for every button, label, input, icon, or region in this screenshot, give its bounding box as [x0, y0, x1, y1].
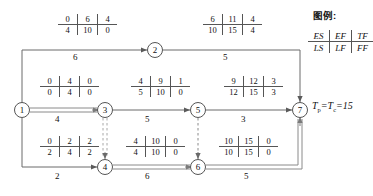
- timebox-lf: 15: [239, 147, 259, 158]
- timebox-ls: 10: [203, 25, 223, 36]
- arc-duration-2-7: 5: [223, 52, 228, 62]
- timebox-tf: 0: [259, 136, 279, 147]
- legend-es: ES: [308, 30, 330, 42]
- arc-duration-1-4: 2: [55, 171, 60, 181]
- timebox-es: 0: [40, 136, 60, 147]
- arc-duration-1-2: 6: [73, 52, 78, 62]
- timebox-arc-1-3: 0 4 0 0 4 0: [40, 76, 99, 97]
- timebox-ff: 0: [171, 87, 191, 98]
- node-circle-7: [293, 103, 308, 118]
- timebox-es: 0: [40, 76, 60, 87]
- node-circle-1: [15, 103, 30, 118]
- project-duration-annotation: Tp=Tc=15: [312, 100, 353, 113]
- legend-lf: LF: [330, 42, 352, 54]
- timebox-lf: 15: [244, 87, 264, 98]
- timebox-tf: 3: [264, 76, 284, 87]
- arc-duration-3-5: 5: [145, 114, 150, 124]
- timebox-ls: 10: [219, 147, 239, 158]
- timebox-es: 0: [58, 14, 78, 25]
- timebox-lf: 15: [223, 25, 243, 36]
- timebox-es: 10: [219, 136, 239, 147]
- timebox-ls: 4: [58, 25, 78, 36]
- arc-duration-6-7: 5: [244, 171, 249, 181]
- timebox-es: 4: [131, 76, 151, 87]
- timebox-es: 4: [126, 136, 146, 147]
- timebox-tf: 0: [166, 136, 186, 147]
- legend-tf: TF: [352, 30, 373, 42]
- timebox-tf: 1: [171, 76, 191, 87]
- timebox-ef: 4: [60, 76, 80, 87]
- timebox-lf: 10: [78, 25, 98, 36]
- timebox-ef: 15: [239, 136, 259, 147]
- timebox-ef: 11: [223, 14, 243, 25]
- timebox-ls: 2: [40, 147, 60, 158]
- timebox-ff: 0: [80, 87, 100, 98]
- timebox-arc-3-5: 4 9 1 5 10 0: [131, 76, 190, 97]
- timebox-arc-4-6: 4 10 0 4 10 0: [126, 136, 185, 157]
- arc-3-4-dummy: [103, 118, 107, 159]
- arc-4-6: [113, 165, 192, 169]
- timebox-ls: 12: [224, 87, 244, 98]
- node-circle-2: [148, 43, 163, 58]
- timebox-ef: 10: [146, 136, 166, 147]
- timebox-es: 6: [203, 14, 223, 25]
- arc-duration-5-7: 3: [241, 114, 246, 124]
- timebox-tf: 4: [243, 14, 263, 25]
- timebox-ef: 2: [60, 136, 80, 147]
- legend-ff: FF: [352, 42, 373, 54]
- timebox-es: 9: [224, 76, 244, 87]
- timebox-arc-2-7: 6 11 4 10 15 4: [203, 14, 262, 35]
- node-circle-5: [191, 103, 206, 118]
- timebox-ff: 4: [243, 25, 263, 36]
- timebox-ef: 12: [244, 76, 264, 87]
- timebox-lf: 10: [151, 87, 171, 98]
- timebox-tf: 4: [98, 14, 118, 25]
- timebox-ls: 4: [126, 147, 146, 158]
- timebox-lf: 4: [60, 147, 80, 158]
- timebox-ff: 0: [259, 147, 279, 158]
- legend-title: 图例:: [313, 8, 336, 22]
- node-circle-4: [98, 160, 113, 175]
- formula-equals-tc: =T: [321, 100, 333, 111]
- timebox-tf: 0: [80, 76, 100, 87]
- timebox-ls: 5: [131, 87, 151, 98]
- network-diagram-canvas: 1 2 3 4 5 6 7 6 5 4 5 3 2 6 5 0 6 4 4 10…: [0, 0, 373, 196]
- timebox-ls: 0: [40, 87, 60, 98]
- timebox-ef: 9: [151, 76, 171, 87]
- timebox-arc-1-2: 0 6 4 4 10 0: [58, 14, 117, 35]
- timebox-tf: 2: [80, 136, 100, 147]
- timebox-ff: 2: [80, 147, 100, 158]
- formula-value: =15: [336, 100, 353, 111]
- node-circle-6: [191, 160, 206, 175]
- timebox-ef: 6: [78, 14, 98, 25]
- arc-1-3: [30, 108, 99, 112]
- arc-duration-1-3: 4: [55, 114, 60, 124]
- timebox-lf: 4: [60, 87, 80, 98]
- legend-ef: EF: [330, 30, 352, 42]
- arc-duration-4-6: 6: [145, 171, 150, 181]
- timebox-lf: 10: [146, 147, 166, 158]
- timebox-ff: 0: [166, 147, 186, 158]
- timebox-ff: 3: [264, 87, 284, 98]
- timebox-arc-5-7: 9 12 3 12 15 3: [224, 76, 283, 97]
- legend-key-box: ES EF TF LS LF FF: [308, 30, 373, 53]
- timebox-arc-6-7: 10 15 0 10 15 0: [219, 136, 278, 157]
- timebox-ff: 0: [98, 25, 118, 36]
- node-circle-3: [98, 103, 113, 118]
- timebox-arc-1-4: 0 2 2 2 4 2: [40, 136, 99, 157]
- legend-ls: LS: [308, 42, 330, 54]
